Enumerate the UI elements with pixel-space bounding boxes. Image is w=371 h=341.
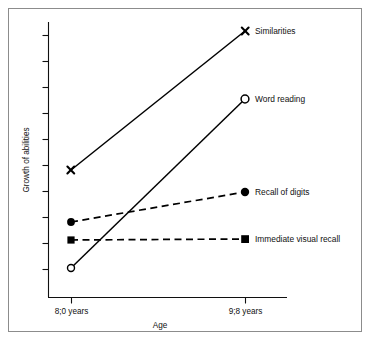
marker-filled-circle-left [67, 218, 75, 226]
series-label-immediate-visual-recall: Immediate visual recall [255, 234, 340, 244]
series-label-similarities: Similarities [255, 26, 296, 36]
series-recall-of-digits-line [71, 192, 245, 222]
x-axis-title: Age [153, 321, 168, 330]
series-word-reading-line [71, 99, 245, 268]
line-chart: 8;0 years 9;8 years Age Growth of abilit… [0, 0, 371, 341]
series-immediate-visual-recall-line [71, 239, 245, 240]
marker-filled-circle-right [241, 188, 249, 196]
marker-filled-square-left [67, 236, 74, 243]
series-label-word-reading: Word reading [255, 94, 305, 104]
series-word-reading: Word reading [68, 94, 306, 272]
x-tick-label-left: 8;0 years [55, 307, 89, 316]
figure-container: 8;0 years 9;8 years Age Growth of abilit… [0, 0, 371, 341]
marker-open-circle-left [68, 265, 75, 272]
series-immediate-visual-recall: Immediate visual recall [67, 234, 340, 244]
series-label-recall-of-digits: Recall of digits [255, 187, 309, 197]
x-tick-label-right: 9;8 years [229, 307, 263, 316]
marker-cross-right [242, 28, 249, 35]
series-recall-of-digits: Recall of digits [67, 187, 309, 226]
series-similarities-line [71, 31, 245, 170]
marker-open-circle-right [241, 95, 249, 103]
marker-cross-left [67, 167, 74, 174]
x-axis-ticks [72, 298, 246, 304]
marker-filled-square-right [241, 235, 249, 243]
y-axis-title: Growth of abilities [22, 127, 31, 192]
y-axis-ticks [43, 36, 49, 270]
